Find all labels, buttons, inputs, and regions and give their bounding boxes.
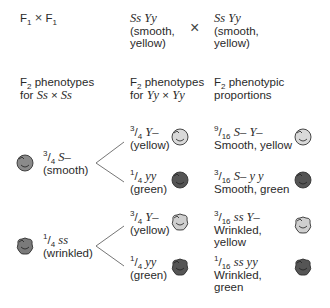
result-wrinkled-yellow: 3/16 ss Y– Wrinkled, yellow [214, 211, 262, 249]
branch-lines-wrinkled [96, 226, 124, 266]
wrinkled-green-pea-icon [172, 259, 188, 275]
result-wrinkled-green-pea-icon [295, 259, 311, 275]
wrinkled-green-label: 1/4 yy (green) [130, 256, 167, 281]
smooth-pea-icon [17, 155, 33, 171]
result-smooth-green-pea-icon [295, 172, 311, 188]
wrinkled-pea-icon [17, 238, 33, 254]
smooth-green-pea-icon [172, 172, 188, 188]
result-smooth-yellow: 9/16 S– Y– Smooth, yellow [214, 126, 292, 151]
branch-lines-smooth [96, 142, 124, 182]
result-wrinkled-green: 1/16 ss yy Wrinkled, green [214, 256, 262, 294]
result-smooth-green: 3/16 S– y y Smooth, green [214, 170, 289, 195]
smooth-green-label: 1/4 yy (green) [130, 170, 167, 195]
smooth-label: 3/4 S– (smooth) [43, 151, 88, 176]
result-smooth-yellow-pea-icon [295, 129, 311, 145]
smooth-yellow-pea-icon [172, 129, 188, 145]
result-wrinkled-yellow-pea-icon [295, 217, 311, 233]
smooth-yellow-label: 3/4 Y– (yellow) [130, 126, 170, 151]
wrinkled-label: 1/4 ss (wrinkled) [43, 234, 93, 259]
wrinkled-yellow-label: 3/4 Y– (yellow) [130, 211, 170, 236]
wrinkled-yellow-pea-icon [172, 214, 188, 230]
